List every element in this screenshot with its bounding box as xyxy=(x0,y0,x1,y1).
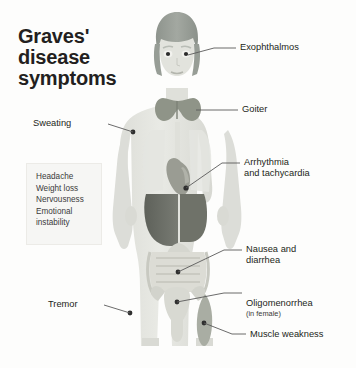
graves-disease-symptoms-diagram: Graves' disease symptoms Headache Weight… xyxy=(0,0,356,368)
leader-exophthalmos xyxy=(188,48,236,55)
callout-nausea: Nausea and diarrhea xyxy=(246,244,296,266)
callout-oligomenorrhea-note: (in female) xyxy=(246,309,313,318)
symptom-item-weight-loss: Weight loss xyxy=(36,183,101,195)
leader-nausea xyxy=(178,250,242,272)
symptom-item-headache: Headache xyxy=(36,171,101,183)
callout-arrhythmia: Arrhythmia and tachycardia xyxy=(244,157,310,179)
symptom-list-box: Headache Weight loss Nervousness Emotion… xyxy=(26,163,102,245)
leader-oligomenorrhea xyxy=(177,293,242,302)
callout-exophthalmos: Exophthalmos xyxy=(240,42,299,53)
title-line-1: Graves' xyxy=(18,26,116,47)
leader-muscle-weakness xyxy=(204,323,246,334)
leader-arrhythmia xyxy=(186,163,240,188)
callout-oligomenorrhea-text: Oligomenorrhea xyxy=(246,298,313,308)
leader-sweating xyxy=(108,124,133,132)
callout-muscle-weakness: Muscle weakness xyxy=(250,329,323,340)
callout-sweating: Sweating xyxy=(33,118,71,129)
callout-oligomenorrhea: Oligomenorrhea (in female) xyxy=(246,287,313,330)
symptom-item-emotional-instability: Emotional instability xyxy=(36,206,101,229)
symptom-item-nervousness: Nervousness xyxy=(36,194,101,206)
title-line-3: symptoms xyxy=(18,68,116,89)
page-title: Graves' disease symptoms xyxy=(18,26,116,89)
title-line-2: disease xyxy=(18,47,116,68)
leader-tremor xyxy=(104,305,130,313)
callout-goiter: Goiter xyxy=(242,104,267,115)
callout-tremor: Tremor xyxy=(48,299,78,310)
